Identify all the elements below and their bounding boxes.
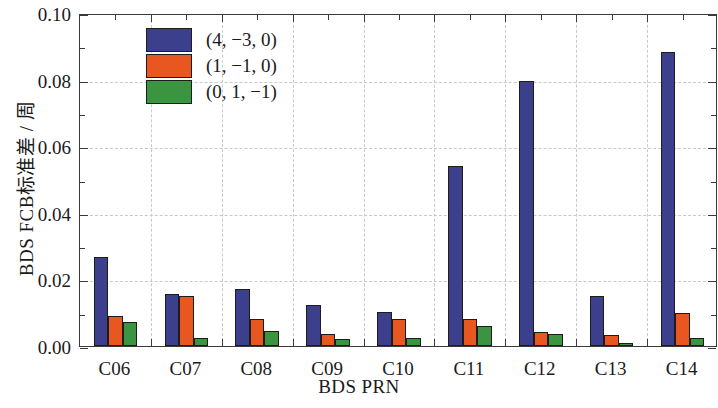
x-axis-tick bbox=[434, 15, 435, 22]
x-axis-tick bbox=[505, 339, 506, 346]
bar bbox=[306, 305, 321, 346]
bar bbox=[165, 294, 180, 346]
bar bbox=[264, 331, 279, 346]
y-axis-tick bbox=[80, 82, 88, 83]
y-axis-tick bbox=[80, 348, 88, 349]
y-axis-tick-label: 0.06 bbox=[7, 138, 71, 157]
x-axis-title: BDS PRN bbox=[0, 376, 718, 398]
bar bbox=[448, 166, 463, 346]
bar bbox=[477, 326, 492, 346]
y-axis-tick bbox=[80, 215, 88, 216]
x-axis-tick bbox=[364, 339, 365, 346]
gridline-horizontal bbox=[80, 281, 716, 282]
legend-item: (1, −1, 0) bbox=[146, 53, 277, 79]
bar bbox=[392, 319, 407, 346]
bar bbox=[108, 316, 123, 346]
bar bbox=[548, 334, 563, 346]
chart-figure: BDS FCB标准差 / 周 0.000.020.040.060.080.10 … bbox=[0, 0, 718, 408]
y-axis-tick-label: 0.02 bbox=[7, 271, 71, 290]
y-axis-tick bbox=[708, 215, 716, 216]
bar bbox=[179, 296, 194, 346]
y-axis-tick bbox=[708, 348, 716, 349]
y-axis-tick bbox=[80, 281, 88, 282]
x-axis-tick bbox=[647, 339, 648, 346]
x-axis-tick bbox=[293, 15, 294, 22]
legend: (4, −3, 0)(1, −1, 0)(0, 1, −1) bbox=[146, 27, 277, 105]
bar bbox=[590, 296, 605, 346]
y-axis-minor-tick bbox=[80, 182, 85, 183]
legend-label: (4, −3, 0) bbox=[206, 29, 277, 51]
gridline-vertical bbox=[647, 15, 648, 346]
y-axis-minor-tick bbox=[711, 315, 716, 316]
y-axis-tick bbox=[708, 82, 716, 83]
x-axis-minor-tick bbox=[399, 15, 400, 20]
gridline-horizontal bbox=[80, 148, 716, 149]
x-axis-minor-tick bbox=[115, 15, 116, 20]
legend-swatch bbox=[146, 54, 192, 78]
bar bbox=[123, 322, 138, 346]
legend-swatch bbox=[146, 28, 192, 52]
y-axis-minor-tick bbox=[80, 248, 85, 249]
y-axis-tick bbox=[80, 148, 88, 149]
x-axis-tick bbox=[576, 15, 577, 22]
legend-label: (1, −1, 0) bbox=[206, 55, 277, 77]
x-axis-tick bbox=[434, 339, 435, 346]
bar bbox=[463, 319, 478, 346]
x-axis-tick bbox=[647, 15, 648, 22]
x-axis-tick bbox=[293, 339, 294, 346]
bar bbox=[321, 334, 336, 346]
x-axis-minor-tick bbox=[470, 15, 471, 20]
bar bbox=[619, 343, 634, 346]
legend-item: (4, −3, 0) bbox=[146, 27, 277, 53]
x-axis-minor-tick bbox=[328, 15, 329, 20]
x-axis-minor-tick bbox=[612, 15, 613, 20]
x-axis-tick bbox=[576, 339, 577, 346]
y-axis-tick bbox=[708, 281, 716, 282]
x-axis-tick bbox=[151, 339, 152, 346]
y-axis-minor-tick bbox=[80, 48, 85, 49]
y-axis-minor-tick bbox=[711, 115, 716, 116]
bar bbox=[377, 312, 392, 346]
x-axis-tick bbox=[222, 339, 223, 346]
bar bbox=[534, 332, 549, 346]
x-axis-tick bbox=[505, 15, 506, 22]
legend-item: (0, 1, −1) bbox=[146, 79, 277, 105]
bar bbox=[661, 52, 676, 346]
plot-area: (4, −3, 0)(1, −1, 0)(0, 1, −1) bbox=[79, 14, 717, 347]
y-axis-tick-label: 0.10 bbox=[7, 5, 71, 24]
gridline-vertical bbox=[364, 15, 365, 346]
y-axis-tick-label: 0.00 bbox=[7, 338, 71, 357]
gridline-vertical bbox=[576, 15, 577, 346]
bar bbox=[406, 338, 421, 346]
y-axis-tick bbox=[80, 15, 88, 16]
bar bbox=[335, 339, 350, 346]
bar bbox=[194, 338, 209, 346]
bar bbox=[604, 335, 619, 346]
y-axis-minor-tick bbox=[80, 115, 85, 116]
gridline-vertical bbox=[505, 15, 506, 346]
bar bbox=[675, 313, 690, 346]
x-axis-tick bbox=[364, 15, 365, 22]
y-axis-minor-tick bbox=[711, 182, 716, 183]
legend-label: (0, 1, −1) bbox=[206, 81, 277, 103]
y-axis-tick-label: 0.08 bbox=[7, 72, 71, 91]
y-axis-tick bbox=[708, 148, 716, 149]
y-axis-minor-tick bbox=[711, 48, 716, 49]
bar bbox=[235, 289, 250, 346]
gridline-vertical bbox=[434, 15, 435, 346]
y-axis-minor-tick bbox=[80, 315, 85, 316]
bar bbox=[519, 81, 534, 346]
y-axis-tick bbox=[708, 15, 716, 16]
y-axis-tick-label: 0.04 bbox=[7, 205, 71, 224]
legend-swatch bbox=[146, 80, 192, 104]
bar bbox=[250, 319, 265, 346]
x-axis-minor-tick bbox=[541, 15, 542, 20]
bar bbox=[690, 338, 705, 346]
x-axis-tick bbox=[151, 15, 152, 22]
gridline-horizontal bbox=[80, 215, 716, 216]
x-axis-tick bbox=[222, 15, 223, 22]
bar bbox=[94, 257, 109, 346]
gridline-vertical bbox=[293, 15, 294, 346]
x-axis-minor-tick bbox=[683, 15, 684, 20]
x-axis-minor-tick bbox=[257, 15, 258, 20]
